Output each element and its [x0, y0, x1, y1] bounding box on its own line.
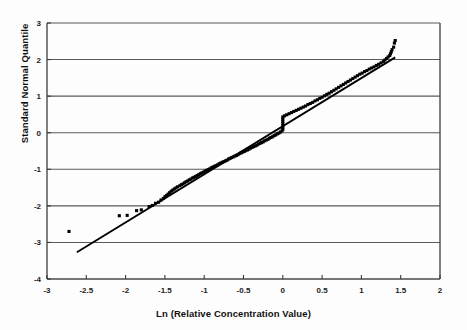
y-tick-label: -3	[25, 238, 41, 247]
y-tick-label: -4	[25, 275, 41, 284]
x-tick-label: 2	[438, 286, 442, 295]
x-tick-label: 1.5	[395, 286, 406, 295]
x-tick-label: -1	[201, 286, 208, 295]
qq-plot-figure: -3-2.5-2-1.5-1-0.500.511.52 3210-1-2-3-4…	[0, 0, 467, 330]
x-axis-title: Ln (Relative Concentration Value)	[0, 308, 467, 319]
plot-canvas	[0, 0, 467, 330]
data-point-markers	[67, 39, 396, 233]
x-tick-label: 0.5	[317, 286, 328, 295]
x-tick-label: -1.5	[158, 286, 172, 295]
x-tick-label: -2.5	[79, 286, 93, 295]
y-tick-label: -2	[25, 201, 41, 210]
gridlines	[47, 23, 440, 242]
x-tick-label: 0	[281, 286, 285, 295]
y-axis-title: Standard Normal Quantile	[19, 0, 30, 194]
x-tick-label: -0.5	[237, 286, 251, 295]
x-tick-label: -2	[122, 286, 129, 295]
x-tick-label: -3	[43, 286, 50, 295]
x-tick-label: 1	[359, 286, 363, 295]
